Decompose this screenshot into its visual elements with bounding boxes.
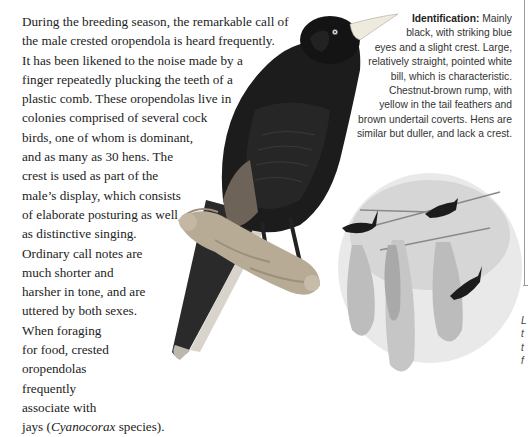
identification-label: Identification: — [412, 13, 480, 24]
identification-line: brown undertail coverts. Hens are — [328, 113, 528, 127]
identification-first-line: Identification: Mainly — [328, 12, 528, 26]
identification-line: similar but duller, and lack a crest. — [328, 127, 528, 141]
identification-line: black, with striking blue — [328, 26, 528, 40]
caption-fragment: L t t f — [521, 314, 527, 368]
identification-line: eyes and a slight crest. Large, — [328, 41, 528, 55]
species-name: Cyanocorax — [51, 419, 115, 434]
identification-line: bill, which is characteristic. — [328, 70, 528, 84]
identification-line: yellow in the tail feathers and — [328, 98, 528, 112]
body-line: associate with — [22, 398, 289, 417]
panel-divider — [524, 0, 525, 285]
panel-divider-foot — [523, 285, 528, 286]
body-line-last: jays (Cyanocorax species). — [22, 417, 289, 436]
identification-line: relatively straight, pointed white — [328, 55, 528, 69]
identification-line: Chestnut-brown rump, with — [328, 84, 528, 98]
identification-panel: Identification: Mainly black, with strik… — [328, 12, 528, 142]
